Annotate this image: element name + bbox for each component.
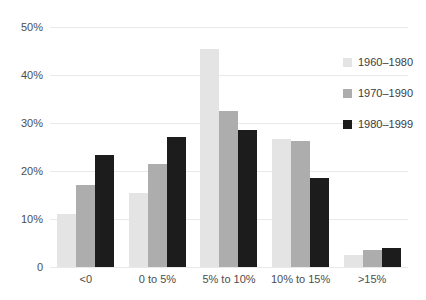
bar [310,178,329,267]
bar [200,49,219,267]
bar [291,141,310,267]
plot-area [50,27,408,267]
bar [148,164,167,267]
bar [238,130,257,267]
bar-group [272,139,329,267]
x-category-label: 0 to 5% [122,273,194,286]
bar [129,193,148,267]
bar [76,185,95,267]
bar [219,111,238,267]
bar-group [57,155,114,267]
y-axis: 50% 40% 30% 20% 10% 0 [0,0,45,300]
gridline [50,267,408,268]
y-tick-label: 30% [0,117,43,129]
bar [167,137,186,267]
y-tick-label: 20% [0,165,43,177]
y-tick-label: 40% [0,69,43,81]
grouped-bar-chart: 50% 40% 30% 20% 10% 0 <0 0 to 5% 5% to 1… [0,0,426,300]
x-category-label: 10% to 15% [265,273,337,286]
x-category-label: 5% to 10% [193,273,265,286]
x-category-label: >15% [336,273,408,286]
bar [95,155,114,267]
bar [363,250,382,267]
y-tick-label: 10% [0,213,43,225]
y-tick-label: 0 [0,261,43,273]
y-tick-label: 50% [0,21,43,33]
bar-groups [50,27,408,267]
bar [382,248,401,267]
bar [57,214,76,267]
x-axis: <0 0 to 5% 5% to 10% 10% to 15% >15% [50,273,408,286]
bar [272,139,291,267]
bar-group [129,137,186,267]
bar-group [200,49,257,267]
x-category-label: <0 [50,273,122,286]
bar-group [344,248,401,267]
bar [344,255,363,267]
